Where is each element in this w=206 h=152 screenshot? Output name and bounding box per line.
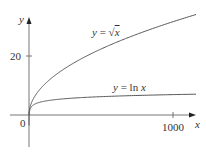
- ln-label-eq: = ln: [118, 81, 141, 93]
- ln-label-var: x: [141, 81, 146, 93]
- y-axis-arrow-icon: [27, 17, 32, 24]
- ln-curve-label: y = ln x: [113, 82, 146, 93]
- sqrt-label-var: x: [115, 26, 120, 38]
- sqrt-label-eq: =: [97, 26, 109, 38]
- y-tick-label-20: 20: [10, 51, 21, 62]
- sqrt-curve-label: y = √x: [92, 27, 120, 38]
- x-axis-label: x: [195, 119, 200, 130]
- y-axis-label: y: [19, 14, 24, 25]
- x-axis-arrow-icon: [189, 113, 196, 118]
- origin-label: 0: [20, 118, 26, 129]
- x-tick-label-1000: 1000: [162, 122, 184, 133]
